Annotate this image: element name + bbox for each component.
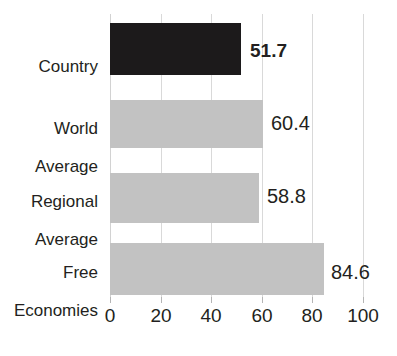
bar-regional-average[interactable] — [110, 173, 259, 223]
gridline-100 — [363, 14, 364, 297]
category-label-regional-average-line1: Regional — [31, 192, 98, 211]
plot-area — [110, 14, 363, 297]
xtick-label-40: 40 — [200, 305, 221, 326]
xtick-label-80: 80 — [301, 305, 322, 326]
category-label-country-line1: Country — [38, 57, 98, 76]
tick-mark-100 — [363, 297, 364, 303]
tick-mark-0 — [110, 297, 111, 303]
value-label-regional-average: 58.8 — [267, 186, 306, 206]
tick-mark-80 — [312, 297, 313, 303]
category-label-free-economies-line1: Free — [63, 263, 98, 282]
tick-mark-60 — [262, 297, 263, 303]
value-label-country: 51.7 — [250, 41, 287, 61]
chart-title — [0, 0, 397, 2]
category-label-world-average-line1: World — [54, 119, 98, 138]
bar-country[interactable] — [110, 23, 241, 75]
xtick-label-60: 60 — [251, 305, 272, 326]
tick-mark-20 — [161, 297, 162, 303]
category-label-free-economies: Free Economies — [14, 244, 98, 320]
value-label-free-economies: 84.6 — [331, 262, 370, 282]
category-label-regional-average: Regional Average — [31, 173, 98, 249]
category-label-country: Country — [38, 38, 98, 76]
category-label-free-economies-line2: Economies — [14, 301, 98, 320]
bar-free-economies[interactable] — [110, 243, 324, 295]
value-label-world-average: 60.4 — [271, 113, 310, 133]
category-label-world-average: World Average — [35, 100, 98, 176]
tick-mark-40 — [211, 297, 212, 303]
xtick-label-20: 20 — [150, 305, 171, 326]
bar-world-average[interactable] — [110, 100, 263, 148]
xtick-label-100: 100 — [347, 305, 379, 326]
xtick-label-0: 0 — [105, 305, 116, 326]
bar-chart: Country World Average Regional Average F… — [0, 0, 397, 356]
